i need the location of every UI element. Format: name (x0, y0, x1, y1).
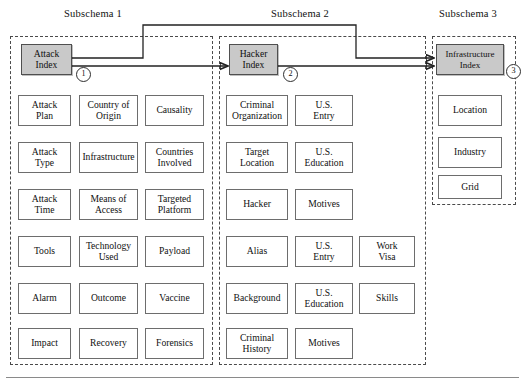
marker-1: 1 (76, 67, 91, 82)
bottom-divider (6, 377, 519, 378)
attr-box[interactable]: Country of Origin (79, 95, 138, 126)
attr-box[interactable]: Hacker (226, 189, 288, 220)
attr-box[interactable]: Work Visa (359, 236, 415, 267)
marker-3: 3 (506, 64, 521, 79)
attr-box[interactable]: Background (226, 283, 288, 314)
attr-box[interactable]: Targeted Platform (145, 189, 204, 220)
attr-box[interactable]: Location (438, 95, 502, 126)
attr-box[interactable]: Motives (295, 328, 353, 359)
attr-box[interactable]: Payload (145, 236, 204, 267)
attr-box[interactable]: Attack Plan (18, 95, 71, 126)
attr-box[interactable]: U.S. Education (295, 283, 353, 314)
attr-box[interactable]: Criminal History (226, 328, 288, 359)
attr-box[interactable]: Vaccine (145, 283, 204, 314)
attr-box[interactable]: Forensics (145, 328, 204, 359)
attr-box[interactable]: Motives (295, 189, 353, 220)
attr-box[interactable]: Means of Access (79, 189, 138, 220)
attr-box[interactable]: U.S. Entry (295, 236, 353, 267)
attr-box[interactable]: Attack Type (18, 142, 71, 173)
attr-box[interactable]: Alarm (18, 283, 71, 314)
attr-box[interactable]: Alias (226, 236, 288, 267)
attr-box[interactable]: Skills (359, 283, 415, 314)
attr-box[interactable]: Attack Time (18, 189, 71, 220)
attr-box[interactable]: Industry (438, 137, 502, 168)
attr-box[interactable]: U.S. Education (295, 142, 353, 173)
attr-box[interactable]: Causality (145, 95, 204, 126)
subschema-3-header: Subschema 3 (416, 8, 520, 19)
attr-box[interactable]: Grid (438, 175, 502, 199)
attr-box[interactable]: Target Location (226, 142, 288, 173)
subschema-2-header: Subschema 2 (245, 8, 355, 19)
attack-index-box[interactable]: Attack Index (21, 44, 72, 75)
attr-box[interactable]: Technology Used (79, 236, 138, 267)
subschema-1-header: Subschema 1 (38, 8, 148, 19)
attr-box[interactable]: Criminal Organization (226, 95, 288, 126)
hacker-index-box[interactable]: Hacker Index (229, 44, 278, 75)
attr-box[interactable]: U.S. Entry (295, 95, 353, 126)
attr-box[interactable]: Outcome (79, 283, 138, 314)
schema-diagram: Subschema 1 Subschema 2 Subschema 3 Atta… (0, 0, 525, 386)
attr-box[interactable]: Impact (18, 328, 71, 359)
attr-box[interactable]: Infrastructure (79, 142, 138, 173)
attr-box[interactable]: Countries Involved (145, 142, 204, 173)
infrastructure-index-box[interactable]: Infrastructure Index (436, 44, 504, 75)
marker-2: 2 (283, 67, 298, 82)
attr-box[interactable]: Tools (18, 236, 71, 267)
attr-box[interactable]: Recovery (79, 328, 138, 359)
